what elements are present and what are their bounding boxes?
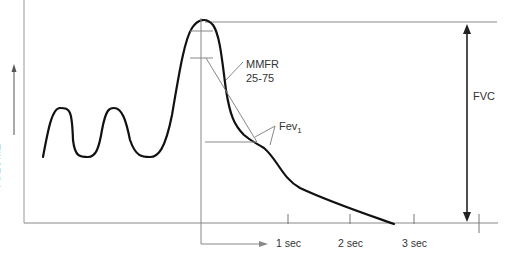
fvc-label: FVC xyxy=(473,90,495,102)
x-tick-label-3: 3 sec xyxy=(402,237,427,249)
fev1-label-main: Fev xyxy=(279,120,297,132)
fev1-label-sub: 1 xyxy=(297,126,301,135)
fvc-arrow-head-down xyxy=(463,212,471,222)
spirogram-diagram xyxy=(0,0,506,257)
x-tick-label-2: 2 sec xyxy=(338,237,363,249)
y-axis-label: VOLUME xyxy=(0,144,2,190)
volume-arrow-head xyxy=(12,64,17,72)
time-arrow-head xyxy=(259,241,268,247)
fev1-leader-1 xyxy=(255,126,275,137)
spirogram-curve xyxy=(43,20,394,224)
fvc-arrow-head-up xyxy=(463,24,471,34)
mmfr-slope-line xyxy=(206,58,257,142)
mmfr-leader xyxy=(226,62,243,80)
fev1-label: Fev1 xyxy=(279,120,302,135)
mmfr-label-line2: 25-75 xyxy=(246,72,274,84)
x-tick-label-1: 1 sec xyxy=(276,237,301,249)
mmfr-label-line1: MMFR xyxy=(246,58,279,70)
